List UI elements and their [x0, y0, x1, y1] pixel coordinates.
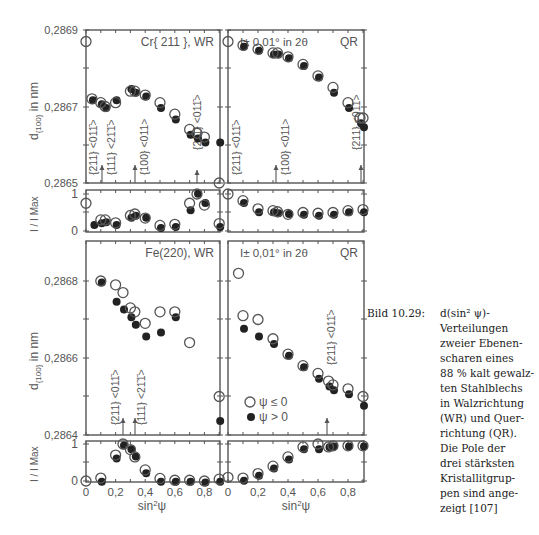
caption-line: in Walzrichtung	[440, 396, 538, 411]
y-tick-label: 1	[71, 437, 78, 451]
data-point-filled	[255, 332, 263, 340]
x-tick-label: 0,4	[280, 486, 297, 498]
pole-annotation: {111} <21̄1̄>	[105, 119, 117, 175]
panel-title: Cr{ 211 }, WR	[141, 35, 214, 49]
caption-line: Die Pole der	[440, 441, 538, 456]
data-point-open	[253, 315, 263, 325]
x-tick-label: 0	[225, 486, 231, 498]
caption-line: ten Stahlblechs	[440, 381, 538, 396]
pole-annotation: {211} <011̄>	[325, 309, 337, 365]
error-note: I± 0,01° in 2θ	[240, 36, 308, 48]
data-point-filled	[142, 332, 150, 340]
y-tick-label: 0,2869	[44, 24, 78, 36]
x-tick-label: 0,6	[167, 486, 183, 498]
legend-open-marker-icon	[245, 397, 255, 407]
data-point-open	[118, 288, 128, 298]
error-note: I± 0,01° in 2θ	[240, 247, 308, 259]
panel-frame	[228, 30, 364, 183]
data-point-open	[185, 338, 195, 348]
y-axis-label: d{100} in nm	[27, 82, 43, 140]
y-tick-label: 0,2868	[44, 275, 78, 287]
arrow-head-icon	[274, 165, 279, 170]
data-point-filled	[90, 221, 98, 229]
x-tick-label: 0,8	[196, 486, 212, 498]
caption-line: (WR) und Quer-	[440, 411, 538, 426]
caption-line: pen sind ange-	[440, 486, 538, 501]
data-point-filled	[216, 417, 224, 425]
caption-line: Verteilungen	[440, 321, 538, 336]
panel-title: QR	[340, 246, 358, 260]
data-point-filled	[157, 329, 165, 337]
caption-line: 88 % kalt gewalz-	[440, 366, 538, 381]
caption-label: Bild 10.29:	[367, 306, 425, 321]
arrow-head-icon	[359, 165, 364, 170]
pole-annotation: {211} <011̄>	[87, 119, 99, 175]
panel-frame	[86, 241, 220, 435]
caption-line: d(sin² ψ)-	[440, 306, 538, 321]
arrow-head-icon	[195, 170, 200, 175]
data-point-filled	[216, 138, 224, 146]
y-tick-label: 0	[71, 474, 78, 488]
caption-line: richtung (QR).	[440, 426, 538, 441]
caption-line: scharen eines	[440, 351, 538, 366]
x-tick-label: 0,8	[340, 486, 356, 498]
y-axis-label: d{100} in nm	[27, 332, 43, 390]
y-tick-label: 0,2866	[44, 352, 78, 364]
arrow-head-icon	[133, 165, 138, 170]
pole-annotation: {100} <011>	[138, 119, 150, 175]
arrow-head-icon	[325, 418, 330, 423]
arrow-head-icon	[100, 165, 105, 170]
arrow-head-icon	[121, 418, 126, 423]
data-point-open	[238, 311, 248, 321]
data-point-open	[155, 307, 165, 317]
data-point-filled	[240, 325, 248, 333]
x-axis-label: sin2ψ	[138, 499, 166, 513]
x-tick-label: 0,2	[108, 486, 124, 498]
data-point-filled	[113, 298, 121, 306]
x-tick-label: 0,4	[137, 486, 154, 498]
y-tick-label: 0,2867	[44, 101, 78, 113]
legend-label-filled: ψ > 0	[259, 410, 288, 424]
data-point-filled	[360, 402, 368, 410]
caption-body: d(sin² ψ)-Verteilungenzweier Ebenen-scha…	[440, 306, 538, 516]
legend-label-open: ψ ≤ 0	[259, 395, 288, 409]
panel-frame	[228, 241, 364, 435]
panel-title: QR	[340, 35, 358, 49]
x-tick-label: 0	[83, 486, 89, 498]
data-point-open	[140, 318, 150, 328]
x-tick-label: 0,2	[250, 486, 266, 498]
pole-annotation: {211} <011̄>	[109, 369, 121, 425]
data-point-filled	[132, 321, 140, 329]
caption-line: zweier Ebenen-	[440, 336, 538, 351]
pole-annotation: {211} <011̄>	[230, 119, 242, 175]
data-point-open	[234, 268, 244, 278]
pole-annotation: {100} <011>	[279, 119, 291, 175]
y-axis-label: I / I Max	[29, 196, 40, 232]
caption-line: Kristallitgrup-	[440, 471, 538, 486]
x-tick-label: 0,6	[310, 486, 326, 498]
panel-frame	[86, 441, 220, 482]
caption-line: drei stärksten	[440, 456, 538, 471]
pole-annotation: {111} <21̄1̄>	[135, 369, 147, 425]
x-axis-label: sin2ψ	[282, 499, 310, 513]
y-axis-label: I / I Max	[29, 446, 40, 482]
y-tick-label: 1	[71, 187, 78, 201]
data-point-filled	[360, 123, 368, 131]
y-tick-label: 0	[71, 224, 78, 238]
legend-filled-marker-icon	[247, 413, 255, 421]
panel-title: Fe(220), WR	[145, 246, 214, 260]
caption-line: zeigt [107]	[440, 501, 538, 516]
data-point-open	[111, 280, 121, 290]
